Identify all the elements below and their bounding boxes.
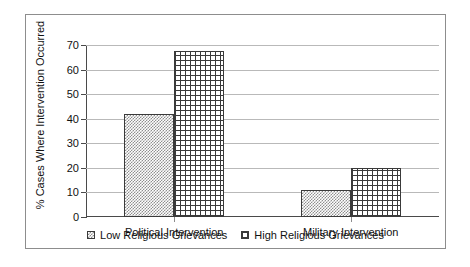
y-tick-label: 20 xyxy=(67,162,79,173)
y-tick xyxy=(81,143,86,144)
y-axis-title-text: % Cases Where Intervention Occurred xyxy=(34,21,46,209)
legend-label-high: High Religious Grievances xyxy=(254,229,384,241)
gridline xyxy=(86,94,439,95)
chart-frame: % Cases Where Intervention Occurred 0102… xyxy=(25,14,446,249)
bar xyxy=(351,168,401,217)
legend: Low Religious Grievances High Religious … xyxy=(26,229,445,241)
y-tick-label: 10 xyxy=(67,187,79,198)
y-tick xyxy=(81,94,86,95)
legend-swatch-low-icon xyxy=(87,231,95,239)
y-axis-title: % Cases Where Intervention Occurred xyxy=(32,29,48,201)
plot: 010203040506070 Political InterventionMi… xyxy=(86,31,439,219)
gridline xyxy=(86,70,439,71)
y-tick xyxy=(81,192,86,193)
y-tick-label: 30 xyxy=(67,138,79,149)
x-tick xyxy=(351,217,352,222)
y-tick-label: 40 xyxy=(67,113,79,124)
bar xyxy=(124,114,174,217)
y-tick xyxy=(81,119,86,120)
plot-area: 010203040506070 xyxy=(86,45,439,217)
gridline xyxy=(86,45,439,46)
bar xyxy=(174,51,224,217)
y-tick xyxy=(81,70,86,71)
legend-swatch-high-icon xyxy=(241,231,249,239)
legend-item-low: Low Religious Grievances xyxy=(87,229,227,241)
y-tick xyxy=(81,45,86,46)
bar xyxy=(301,190,351,217)
y-tick-label: 70 xyxy=(67,40,79,51)
y-tick-label: 0 xyxy=(73,212,79,223)
legend-item-high: High Religious Grievances xyxy=(241,229,384,241)
y-tick-label: 60 xyxy=(67,64,79,75)
y-tick xyxy=(81,168,86,169)
legend-label-low: Low Religious Grievances xyxy=(100,229,227,241)
x-tick xyxy=(174,217,175,222)
y-tick-label: 50 xyxy=(67,89,79,100)
